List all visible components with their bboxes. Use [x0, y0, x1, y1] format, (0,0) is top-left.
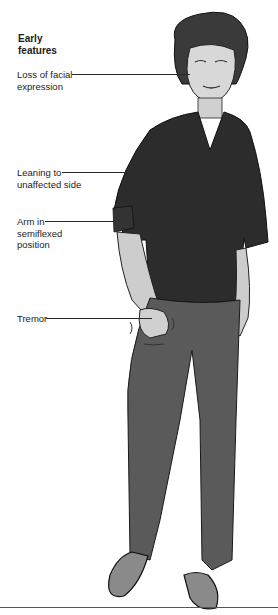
label-line: position: [17, 239, 62, 251]
label-line: unaffected side: [17, 179, 81, 191]
label-leaning-to-unaffected-side: Leaning to unaffected side: [17, 167, 81, 190]
label-line: expression: [17, 81, 72, 93]
pants: [127, 298, 240, 570]
label-line: Loss of facial: [17, 69, 72, 81]
label-line: semiflexed: [17, 228, 62, 240]
leader-line-leaning: [62, 172, 257, 173]
label-line: Tremor: [17, 313, 47, 325]
left-shoe: [109, 552, 148, 597]
right-shoe: [184, 573, 218, 609]
label-loss-of-facial-expression: Loss of facial expression: [17, 69, 72, 92]
tremor-hand: [139, 308, 168, 338]
leader-line-arm: [45, 221, 114, 222]
leader-line-tremor: [46, 318, 152, 319]
ground-line: [0, 607, 278, 608]
leader-line-facial: [72, 74, 190, 75]
figure-title: Early features: [18, 33, 78, 57]
label-tremor: Tremor: [17, 313, 47, 325]
woman-figure-illustration: [0, 0, 278, 615]
face: [187, 44, 235, 102]
